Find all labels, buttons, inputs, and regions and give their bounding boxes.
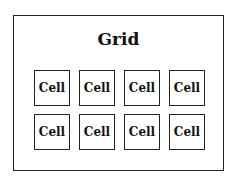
grid-cell: Cell (34, 114, 70, 150)
grid-cell: Cell (79, 114, 115, 150)
grid-container: Grid Cell Cell Cell Cell Cell Cell Cell … (13, 15, 224, 171)
cell-grid: Cell Cell Cell Cell Cell Cell Cell Cell (34, 70, 205, 150)
grid-cell: Cell (79, 70, 115, 106)
grid-cell: Cell (124, 114, 160, 150)
grid-cell: Cell (34, 70, 70, 106)
grid-cell: Cell (169, 114, 205, 150)
grid-title: Grid (14, 29, 223, 49)
grid-cell: Cell (169, 70, 205, 106)
grid-cell: Cell (124, 70, 160, 106)
